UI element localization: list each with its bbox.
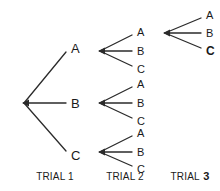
trial-caption-1: TRIAL 1 bbox=[36, 171, 74, 182]
tree-diagram-canvas: ABCABCABCABCABC TRIAL 1TRIAL 2TRIAL 3 bbox=[0, 0, 220, 191]
branch-line-trial3-a bbox=[165, 18, 201, 33]
trial-caption-word: TRIAL bbox=[36, 171, 65, 182]
outcome-label-trial2-fan1-b-1: B bbox=[137, 46, 144, 57]
trial-caption-3: TRIAL 3 bbox=[171, 171, 210, 182]
outcome-label-trial2-fan2-a-0: A bbox=[137, 79, 144, 90]
outcome-label-trial2-fan2-c-2: C bbox=[137, 116, 145, 127]
outcome-label-trial1-a-0: A bbox=[71, 42, 80, 55]
root-arrowhead-trial2-fan1 bbox=[98, 47, 105, 54]
arrowhead-group bbox=[22, 29, 170, 155]
trial-caption-2: TRIAL 2 bbox=[106, 171, 144, 182]
outcome-label-trial2-fan3-b-1: B bbox=[137, 147, 144, 158]
outcome-label-trial3-a-0: A bbox=[206, 10, 213, 21]
tree-branches-svg bbox=[0, 0, 220, 191]
outcome-label-trial2-fan3-a-0: A bbox=[137, 128, 144, 139]
outcome-label-trial2-fan1-c-2: C bbox=[137, 64, 145, 75]
branch-line-trial1-c bbox=[24, 103, 66, 151]
outcome-label-trial2-fan1-a-0: A bbox=[137, 27, 144, 38]
outcome-label-trial2-fan2-b-1: B bbox=[137, 98, 144, 109]
trial-caption-number: 3 bbox=[200, 170, 210, 182]
trial-caption-number: 2 bbox=[135, 171, 144, 182]
root-arrowhead-trial2-fan2 bbox=[98, 99, 105, 106]
root-arrowhead-trial3 bbox=[163, 29, 170, 36]
root-arrowhead-trial2-fan3 bbox=[98, 148, 105, 155]
trial-caption-number: 1 bbox=[65, 171, 74, 182]
outcome-label-trial1-c-2: C bbox=[71, 149, 80, 162]
trial-caption-word: TRIAL bbox=[171, 171, 200, 182]
outcome-label-trial1-b-1: B bbox=[71, 97, 80, 110]
branch-line-trial1-a bbox=[24, 52, 66, 103]
outcome-label-trial3-c-2: C bbox=[206, 46, 215, 57]
trial-caption-word: TRIAL bbox=[106, 171, 135, 182]
branch-line-trial3-c bbox=[165, 33, 201, 48]
outcome-label-trial3-b-1: B bbox=[206, 28, 213, 39]
branch-line-group bbox=[24, 18, 201, 166]
